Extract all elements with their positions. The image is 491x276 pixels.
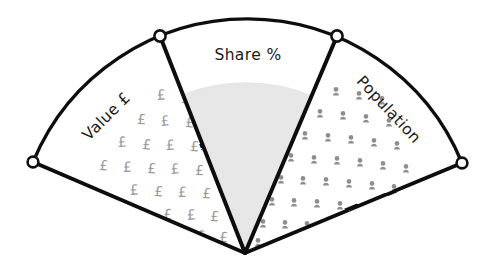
- svg-text:£: £: [154, 183, 164, 199]
- node-left-inner[interactable]: [154, 30, 165, 41]
- svg-text:£: £: [123, 159, 132, 175]
- svg-text:£: £: [142, 136, 152, 153]
- segment-label-share: Share %: [214, 46, 281, 64]
- svg-text:£: £: [160, 112, 170, 129]
- svg-text:£: £: [99, 157, 109, 174]
- node-left-outer[interactable]: [28, 157, 39, 168]
- svg-text:£: £: [156, 86, 166, 103]
- node-right-outer[interactable]: [457, 158, 468, 169]
- svg-text:£: £: [178, 184, 187, 200]
- node-right-inner[interactable]: [331, 30, 342, 41]
- fan-diagram-svg: £ £ £ £ £ £ £ £ £ £ £ £ £ £ £ £ £ £ £ £ …: [0, 0, 491, 276]
- svg-text:£: £: [186, 206, 196, 223]
- svg-text:£: £: [170, 160, 180, 177]
- svg-text:£: £: [147, 160, 157, 176]
- svg-text:£: £: [195, 162, 204, 178]
- svg-text:£: £: [210, 208, 220, 224]
- svg-text:£: £: [129, 181, 139, 198]
- svg-text:£: £: [166, 137, 175, 153]
- svg-text:£: £: [190, 138, 200, 154]
- svg-text:£: £: [137, 111, 146, 127]
- fan-diagram-canvas: £ £ £ £ £ £ £ £ £ £ £ £ £ £ £ £ £ £ £ £ …: [0, 0, 491, 276]
- svg-text:£: £: [202, 185, 212, 202]
- svg-text:£: £: [117, 134, 127, 150]
